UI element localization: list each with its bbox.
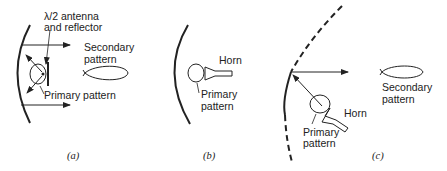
secondary-label-2: pattern [382,93,415,105]
secondary-pattern-lobe [382,66,423,78]
primary-label: Primary pattern [44,89,116,101]
caption-b: (b) [203,150,216,162]
panel-c: Horn Primary pattern Secondary pattern (… [284,6,433,162]
reflector-dish-dashed-bottom [285,115,292,162]
reflector-dish-dashed-top [291,6,342,72]
caption-a: (a) [67,150,80,162]
primary-label-2: pattern [303,137,336,149]
reflector-dish [18,25,31,123]
antenna-label-2: and reflector [44,21,103,33]
primary-label-1: Primary [201,88,238,100]
primary-label-2: pattern [201,100,234,112]
leader-line [46,30,50,64]
leader-line [197,83,199,93]
ray-arrow [27,76,42,93]
antenna-feed-diagram: λ/2 antenna and reflector Secondary patt… [0,0,447,171]
panel-a: λ/2 antenna and reflector Secondary patt… [18,10,135,162]
ray-arrow [293,75,322,106]
primary-pattern-shape [188,64,204,82]
secondary-label-1: Secondary [84,41,135,53]
reflector-dish [284,72,291,115]
panel-b: Horn Primary pattern (b) [174,25,241,162]
dipole-dot [42,73,45,76]
secondary-label-1: Secondary [382,81,433,93]
leader-line [312,114,316,124]
caption-c: (c) [372,150,384,162]
secondary-pattern-lobe [85,66,128,80]
horn-feed [205,67,232,80]
ray-arrow [26,55,42,72]
side-lobe [83,70,85,76]
horn-label: Horn [344,107,367,119]
horn-label: Horn [219,54,242,66]
secondary-label-2: pattern [84,53,117,65]
side-lobe [380,69,382,75]
